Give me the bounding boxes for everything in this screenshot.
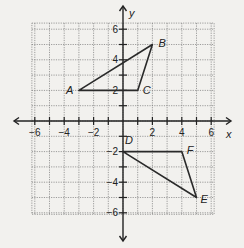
y-axis-label: y [128, 7, 136, 19]
x-tick-label: 6 [208, 127, 214, 138]
vertex-label-b: B [158, 37, 165, 49]
coordinate-plane: −6−4−2246642−2−4−6 ABCDEF x y [0, 0, 244, 248]
y-tick-label: 4 [112, 54, 118, 65]
x-tick-label: −2 [88, 127, 100, 138]
y-tick-label: −4 [107, 177, 119, 188]
vertex-label-d: D [125, 134, 133, 146]
vertex-label-c: C [143, 84, 151, 96]
x-tick-label: −4 [58, 127, 70, 138]
axes [14, 6, 231, 241]
y-tick-label: −6 [107, 207, 119, 218]
x-axis-label: x [225, 128, 232, 140]
vertex-label-e: E [201, 193, 209, 205]
x-tick-label: 2 [150, 127, 156, 138]
triangle-abc [79, 45, 152, 91]
vertex-label-a: A [65, 84, 73, 96]
triangle-def [123, 152, 197, 198]
x-tick-label: 4 [179, 127, 185, 138]
y-tick-label: −2 [107, 146, 119, 157]
x-tick-label: −6 [29, 127, 41, 138]
y-tick-label: 6 [112, 24, 118, 35]
vertex-label-f: F [187, 144, 195, 156]
